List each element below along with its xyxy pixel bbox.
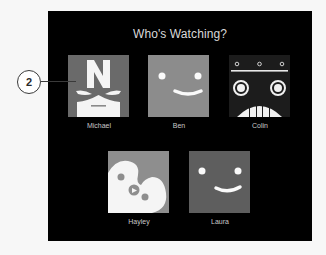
profile-ben[interactable]: Ben [148,55,210,129]
profile-laura[interactable]: Laura [189,151,251,225]
profile-name: Laura [189,218,251,225]
page-title: Who's Watching? [48,27,312,41]
profile-hayley[interactable]: Hayley [108,151,170,225]
callout-number-badge: 2 [17,70,41,94]
profile-name: Ben [148,122,210,129]
smiley-face-icon [189,151,250,213]
superhero-mask-icon [68,55,129,117]
callout-leader-line [41,81,76,82]
profile-colin[interactable]: Colin [229,55,291,129]
profile-name: Colin [229,122,291,129]
paint-palette-icon [108,151,169,213]
smiley-face-icon [148,55,209,117]
profile-name: Hayley [108,218,170,225]
profile-michael[interactable]: Michael [68,55,130,129]
profile-selection-panel: Who's Watching? Michael [48,11,312,241]
screen: Who's Watching? Michael [0,0,326,255]
profile-name: Michael [68,122,130,129]
robot-face-icon [229,55,290,117]
